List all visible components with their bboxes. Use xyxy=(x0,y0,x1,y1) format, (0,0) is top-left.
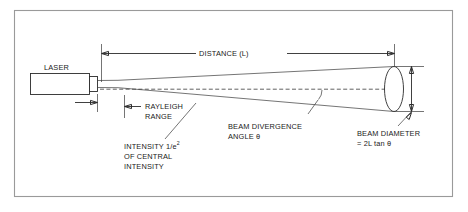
diverging-beam-cone xyxy=(98,67,404,112)
diameter-leader-arrow xyxy=(406,113,411,120)
distance-label: DISTANCE (L) xyxy=(199,49,249,58)
distance-dimension: DISTANCE (L) xyxy=(102,44,395,82)
rayleigh-range-label-line2: RANGE xyxy=(145,112,172,121)
rayleigh-range-dimension: RAYLEIGH RANGE xyxy=(75,94,183,121)
intensity-label-line2: OF CENTRAL xyxy=(124,152,172,161)
divergence-angle-arc xyxy=(319,90,323,100)
beam-edge-upper xyxy=(118,67,394,81)
laser-housing xyxy=(31,74,90,95)
laser-label: LASER xyxy=(44,63,69,72)
divergence-leader-line xyxy=(308,100,318,114)
intensity-label-superscript: 2 xyxy=(177,140,180,146)
beam-divergence-callout: BEAM DIVERGENCE ANGLE θ xyxy=(228,90,322,141)
beam-diameter-label-line2: = 2L tan θ xyxy=(357,139,391,148)
beam-diameter-label-line1: BEAM DIAMETER xyxy=(357,129,420,138)
divergence-label-line1: BEAM DIVERGENCE xyxy=(228,122,302,131)
laser-housing-group: LASER xyxy=(31,63,98,95)
laser-output-aperture xyxy=(90,77,98,92)
laser-divergence-diagram: DISTANCE (L) LASER xyxy=(0,0,468,212)
intensity-label-line3: INTENSITY xyxy=(124,162,164,171)
figure-canvas: DISTANCE (L) LASER xyxy=(0,0,468,212)
intensity-label-text: INTENSITY 1/e xyxy=(124,142,177,151)
rayleigh-range-label-line1: RAYLEIGH xyxy=(145,102,183,111)
beam-cross-section-ellipse xyxy=(385,67,404,112)
intensity-label-line1: INTENSITY 1/e2 xyxy=(124,140,180,150)
divergence-label-line2: ANGLE θ xyxy=(228,132,260,141)
